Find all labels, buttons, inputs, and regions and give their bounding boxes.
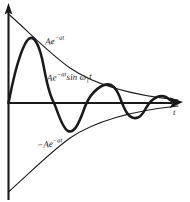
horizontal-axis	[9, 97, 184, 108]
upper-envelope-curve	[9, 14, 179, 100]
lower-envelope-label-base: −Ae	[37, 139, 54, 150]
lower-envelope-label: −Ae−at	[37, 138, 63, 150]
damped-sine-label-tail: sin ω	[66, 71, 86, 82]
damped-sine-curve	[9, 38, 179, 132]
damped-sine-label-tail-end: t	[89, 71, 92, 81]
plot-canvas	[0, 0, 190, 202]
upper-envelope-label-base: Ae	[45, 36, 55, 46]
damped-sine-label: Ae−atsin ω1t	[47, 71, 92, 83]
upper-envelope-label: Ae−at	[45, 35, 65, 46]
time-axis-label: t	[173, 107, 175, 117]
damped-sine-label-base: Ae	[47, 72, 57, 82]
lower-envelope-curve	[9, 106, 179, 192]
lower-envelope-label-exponent: −at	[52, 136, 62, 144]
upper-envelope-label-exponent: −at	[54, 34, 64, 42]
damped-oscillation-figure: Ae−at Ae−atsin ω1t −Ae−at t	[0, 0, 190, 202]
